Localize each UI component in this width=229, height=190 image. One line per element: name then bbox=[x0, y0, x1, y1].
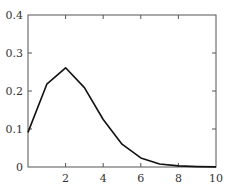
x-tick-label: 2 bbox=[62, 172, 69, 185]
y-axis-tick-labels: 00.10.20.30.4 bbox=[6, 9, 24, 174]
y-tick-label: 0 bbox=[16, 161, 23, 174]
data-series bbox=[28, 68, 216, 167]
line-chart: 246810 00.10.20.30.4 bbox=[0, 0, 229, 190]
y-tick-label: 0.1 bbox=[6, 123, 24, 136]
x-tick-label: 4 bbox=[100, 172, 107, 185]
series-line bbox=[28, 68, 216, 167]
x-tick-label: 10 bbox=[209, 172, 223, 185]
x-tick-label: 6 bbox=[137, 172, 144, 185]
y-tick-label: 0.4 bbox=[6, 9, 24, 22]
y-tick-label: 0.3 bbox=[6, 47, 24, 60]
x-axis-tick-labels: 246810 bbox=[62, 172, 223, 185]
y-tick-label: 0.2 bbox=[6, 85, 24, 98]
x-tick-label: 8 bbox=[175, 172, 182, 185]
